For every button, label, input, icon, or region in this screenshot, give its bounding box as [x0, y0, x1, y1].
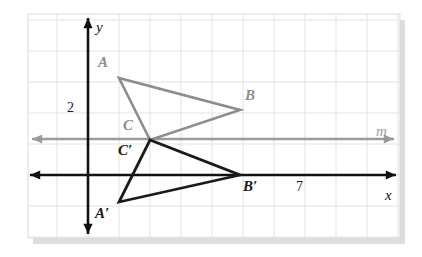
diagram-canvas: [0, 0, 422, 257]
vertex-label-b-prime: B′: [243, 179, 257, 194]
y-axis-label: y: [96, 20, 103, 35]
grid-panel: [28, 14, 400, 238]
vertex-label-b: B: [245, 88, 255, 103]
reflection-diagram: ABCA′B′C′xym27: [0, 0, 422, 257]
tick-label-7: 7: [296, 180, 303, 194]
line-m-label: m: [376, 124, 387, 139]
x-axis-label: x: [385, 188, 392, 203]
vertex-label-a-prime: A′: [95, 206, 109, 221]
tick-label-2: 2: [67, 101, 74, 115]
vertex-label-a: A: [98, 55, 108, 70]
vertex-label-c: C: [123, 118, 133, 133]
vertex-label-c-prime: C′: [118, 143, 132, 158]
